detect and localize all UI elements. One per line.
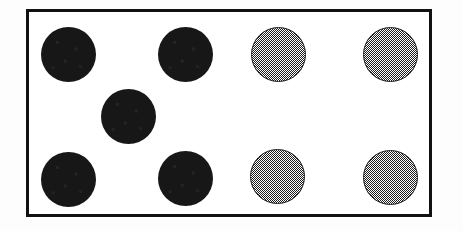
figure-canvas	[0, 0, 463, 231]
circle-token-dither-gray-t4	[363, 27, 418, 82]
circle-token-dark-m1	[101, 89, 156, 144]
circle-token-dither-gray-t3	[251, 27, 306, 82]
circle-token-dither-gray-b3	[250, 149, 305, 204]
circle-token-dark-t2	[158, 27, 213, 82]
circle-token-dark-t1	[41, 27, 96, 82]
circle-token-dither-gray-b4	[363, 150, 418, 205]
circle-token-dark-b1	[41, 152, 96, 207]
circle-token-dark-b2	[158, 151, 213, 206]
